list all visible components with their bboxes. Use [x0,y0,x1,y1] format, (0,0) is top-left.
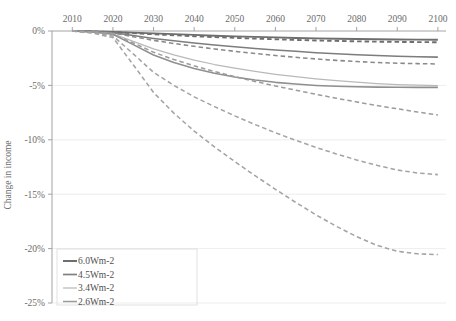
x-tick-label: 2020 [103,14,122,24]
y-tick-label: -15% [24,190,45,200]
x-tick-label: 2100 [428,14,447,24]
x-tick-label: 2040 [185,14,204,24]
chart-legend: 6.0Wm-24.5Wm-23.4Wm-22.6Wm-2 [57,249,197,307]
y-tick-labels-group: 0%-5%-10%-15%-20%-25% [24,26,45,308]
legend-label-4.5Wm-2: 4.5Wm-2 [78,270,114,280]
y-tick-label: -25% [24,298,45,308]
income-change-line-chart: 0%-5%-10%-15%-20%-25% 201020202030204020… [0,0,456,321]
series-line-2.6Wm-2-dashed [72,31,438,175]
y-tick-label: -20% [24,244,45,254]
data-series-group [72,31,438,255]
x-tick-label: 2050 [225,14,244,24]
legend-label-6.0Wm-2: 6.0Wm-2 [78,256,114,266]
x-tick-labels-group: 2010202020302040205020602070208020902100 [63,14,448,24]
y-axis-title: Change in income [3,140,13,209]
x-tick-label: 2090 [388,14,407,24]
chart-canvas: 0%-5%-10%-15%-20%-25% 201020202030204020… [0,0,456,321]
y-tick-label: -5% [29,81,45,91]
x-tick-label: 2070 [307,14,326,24]
x-tick-label: 2060 [266,14,285,24]
y-tick-label: 0% [32,26,45,36]
legend-label-2.6Wm-2: 2.6Wm-2 [78,297,114,307]
x-tick-label: 2010 [63,14,82,24]
series-line-2.6Wm-2-dashed-low [72,31,438,255]
x-tick-label: 2030 [144,14,163,24]
legend-label-3.4Wm-2: 3.4Wm-2 [78,283,114,293]
x-tick-label: 2080 [347,14,366,24]
y-tick-marks-group [48,31,52,303]
y-tick-label: -10% [24,135,45,145]
x-axis-group [52,27,446,31]
series-line-3.4Wm-2-dashed [72,31,438,115]
